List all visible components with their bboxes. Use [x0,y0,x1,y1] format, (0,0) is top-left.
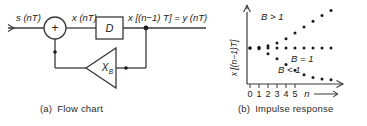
scatter-point [294,47,297,50]
scatter-point [321,14,324,17]
scatter-point [267,47,270,50]
scatter-point [258,47,261,50]
sum-plus-symbol: + [51,21,58,35]
panel-impulse-response: x [(n−1)T] 0 1 2 3 4 5 n B > 1 [215,0,367,100]
summing-junction: + [44,17,66,39]
scatter-point [330,9,333,12]
gain-subscript-label: B [109,68,114,75]
feedback-midpoint-node [53,50,57,54]
input-label: s (nT) [16,12,41,23]
x-tick-4: 4 [283,89,288,99]
y-axis-label: x [(n−1)T] [229,39,239,77]
scatter-point [312,20,315,23]
caption-b-tag: (b) [238,103,250,114]
scatter-point [312,76,315,79]
scatter-point [321,47,324,50]
scatter-point [303,26,306,29]
annotation-b-equals-1: B = 1 [291,53,313,64]
x-axis [247,81,343,88]
output-label: x [(n−1) T] = y (nT) [127,12,207,23]
scatter-point [303,47,306,50]
scatter-point [276,47,279,50]
mid-label: x (nT) [71,12,97,23]
x-tick-2: 2 [265,89,270,99]
feedback-node [124,66,128,70]
x-tick-1: 1 [256,89,261,99]
gain-label: X [101,62,109,73]
annotation-b-greater-than-1: B > 1 [261,11,283,22]
caption-a-text: Flow chart [57,103,103,114]
x-tick-0: 0 [247,89,252,99]
scatter-point [285,47,288,50]
scatter-point [330,78,333,81]
annotation-b-less-than-1: B < 1 [278,64,300,75]
scatter-point [276,41,279,44]
scatter-point [249,47,252,50]
input-signal-path [8,25,44,32]
scatter-point [276,57,279,60]
delay-block-label: D [106,22,114,34]
caption-b-text: Impulse response [255,103,333,114]
panel-flow-chart: s (nT) + x (nT) D x [(n−1) T] = y (nT) X… [0,0,215,100]
figure-root: s (nT) + x (nT) D x [(n−1) T] = y (nT) X… [0,0,367,126]
gain-amplifier: X B [86,48,116,88]
scatter-point [312,47,315,50]
scatter-point [303,73,306,76]
x-tick-5: 5 [292,89,297,99]
x-tick-labels: 0 1 2 3 4 5 n [247,88,338,99]
delay-block: D [96,17,123,39]
scatter-point [294,31,297,34]
scatter-point [267,52,270,55]
scatter-point [285,37,288,40]
x-tick-3: 3 [274,89,279,99]
x-axis-variable-label: n [304,88,309,99]
caption-a-tag: (a) [40,103,52,114]
caption-impulse-response: (b)Impulse response [238,103,333,114]
y-axis [244,5,251,84]
scatter-point [330,47,333,50]
caption-flow-chart: (a)Flow chart [40,103,103,114]
scatter-point [321,77,324,80]
